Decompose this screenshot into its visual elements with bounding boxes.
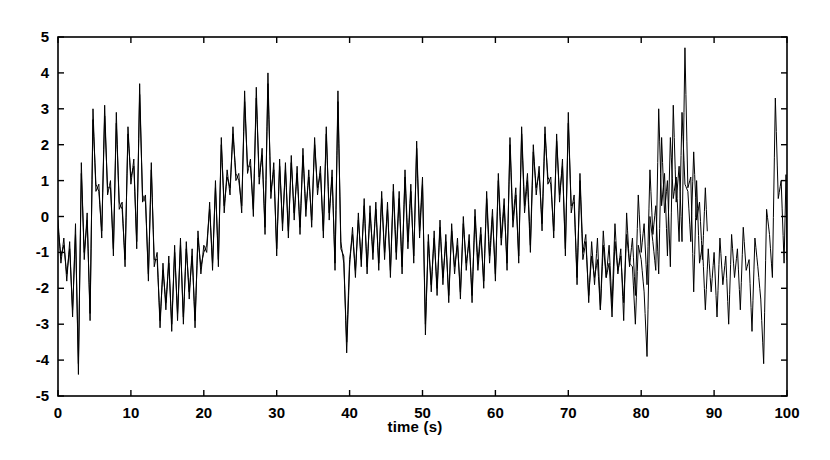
y-tick-label: 1	[41, 172, 49, 189]
chart-container: 0102030405060708090100-5-4-3-2-1012345 t…	[0, 0, 830, 460]
y-tick-label: 2	[41, 136, 49, 153]
y-tick-label: 4	[41, 64, 50, 81]
y-tick-label: -5	[36, 387, 49, 404]
y-tick-label: 3	[41, 100, 49, 117]
y-tick-label: -4	[36, 351, 50, 368]
y-tick-label: 0	[41, 208, 49, 225]
y-tick-label: -3	[36, 315, 49, 332]
y-tick-label: -2	[36, 279, 49, 296]
y-tick-label: -1	[36, 243, 49, 260]
x-axis-label: time (s)	[0, 418, 830, 435]
y-tick-label: 5	[41, 28, 49, 45]
time-series-plot: 0102030405060708090100-5-4-3-2-1012345	[0, 0, 830, 460]
